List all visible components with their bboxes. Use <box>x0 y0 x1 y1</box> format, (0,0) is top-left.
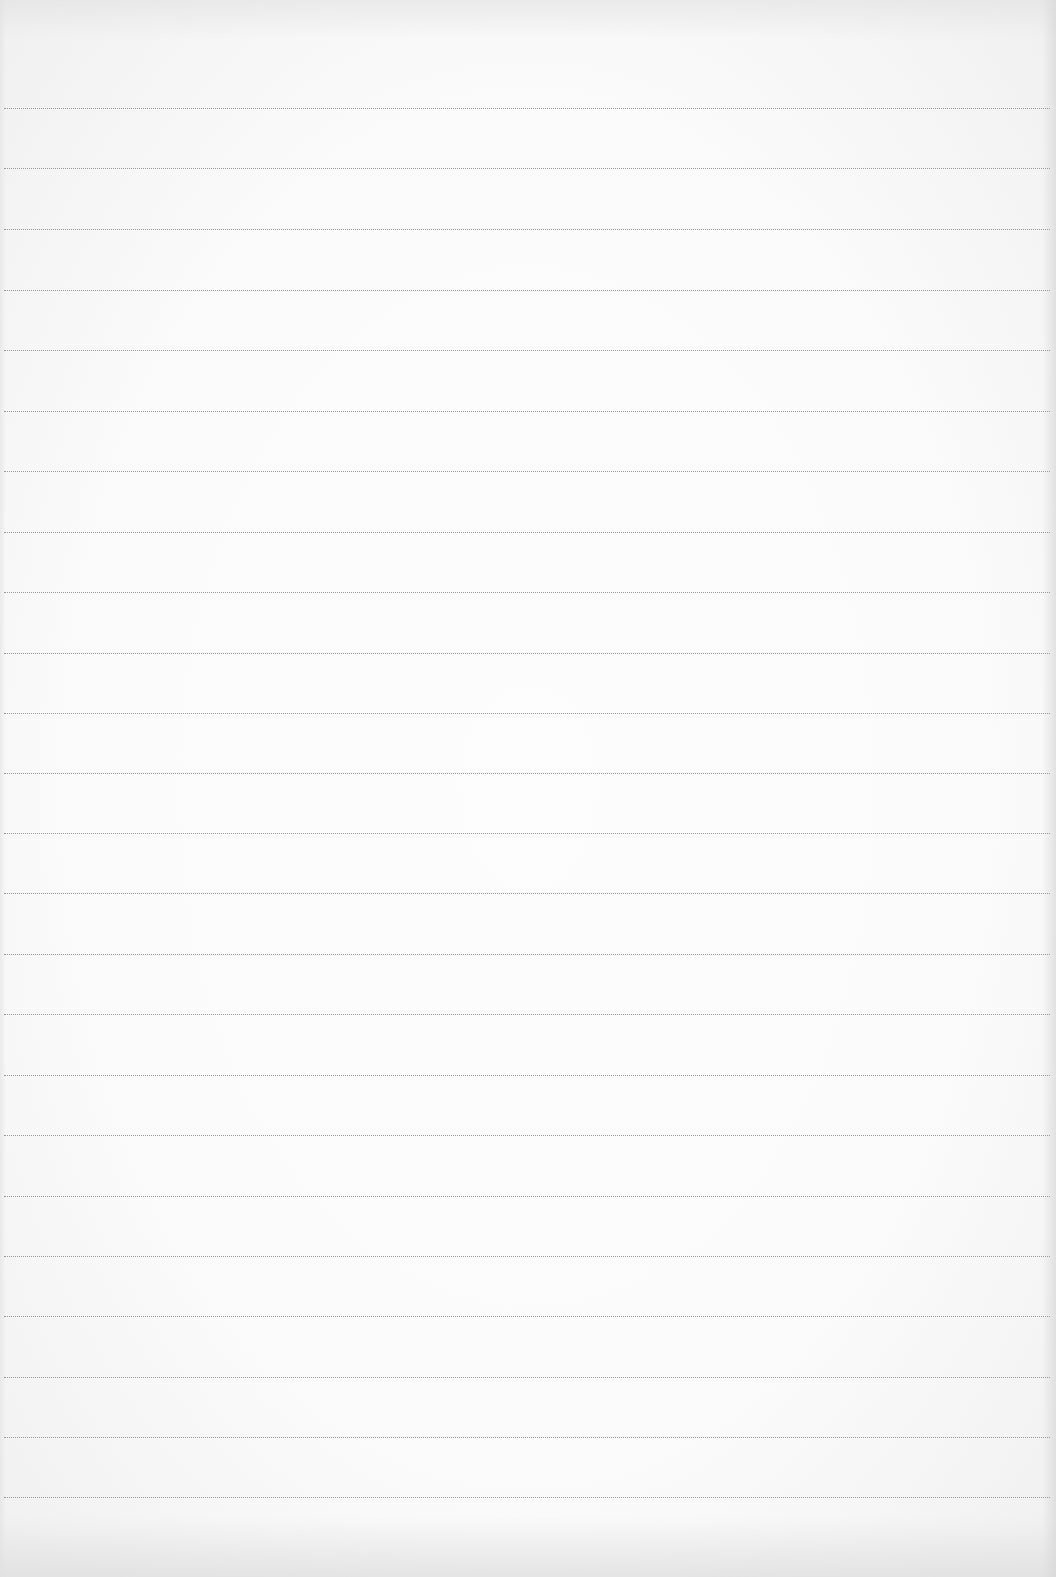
scan-shadow-bottom <box>0 1517 1056 1577</box>
ruled-line <box>4 168 1050 169</box>
ruled-line <box>4 350 1050 351</box>
ruled-line <box>4 532 1050 533</box>
ruled-line <box>4 592 1050 593</box>
scan-shadow-right <box>1042 0 1056 1577</box>
ruled-line <box>4 1075 1050 1076</box>
scan-shadow-top <box>0 0 1056 40</box>
ruled-line <box>4 1196 1050 1197</box>
ruled-line <box>4 713 1050 714</box>
ruled-line <box>4 954 1050 955</box>
ruled-line <box>4 833 1050 834</box>
ruled-line <box>4 1256 1050 1257</box>
scan-shadow-left <box>0 0 6 1577</box>
ruled-line <box>4 108 1050 109</box>
ruled-line <box>4 773 1050 774</box>
ruled-line <box>4 893 1050 894</box>
lined-paper-sheet <box>0 0 1056 1577</box>
ruled-line <box>4 471 1050 472</box>
ruled-line <box>4 1437 1050 1438</box>
ruled-line <box>4 229 1050 230</box>
ruled-line <box>4 1497 1050 1498</box>
ruled-line <box>4 411 1050 412</box>
ruled-line <box>4 653 1050 654</box>
ruled-line <box>4 290 1050 291</box>
ruled-line <box>4 1316 1050 1317</box>
ruled-line <box>4 1014 1050 1015</box>
ruled-line <box>4 1135 1050 1136</box>
ruled-line <box>4 1377 1050 1378</box>
